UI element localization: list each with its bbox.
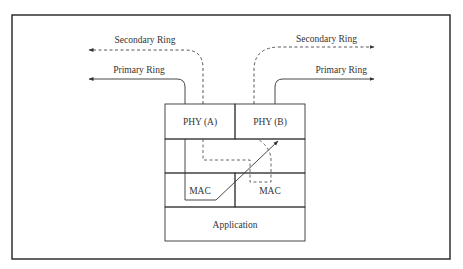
mac-left-label: MAC	[189, 186, 211, 196]
left-secondary-ring-label: Secondary Ring	[115, 35, 176, 45]
middle-row-box	[165, 139, 305, 173]
right-primary-ring-label: Primary Ring	[316, 65, 368, 75]
right-primary-ring-arrow	[275, 79, 374, 104]
left-secondary-ring-arrow	[89, 50, 203, 104]
left-primary-ring-label: Primary Ring	[113, 65, 165, 75]
internal-secondary-path	[203, 139, 271, 182]
application-label: Application	[213, 220, 258, 230]
dual-attached-station-diagram: Secondary Ring Primary Ring Secondary Ri…	[0, 0, 463, 269]
mac-right-label: MAC	[259, 186, 281, 196]
right-secondary-ring-label: Secondary Ring	[296, 34, 357, 44]
phy-b-label: PHY (B)	[253, 117, 287, 128]
right-secondary-ring-arrow	[254, 47, 374, 104]
left-primary-ring-arrow	[89, 79, 185, 104]
phy-a-label: PHY (A)	[183, 117, 217, 128]
